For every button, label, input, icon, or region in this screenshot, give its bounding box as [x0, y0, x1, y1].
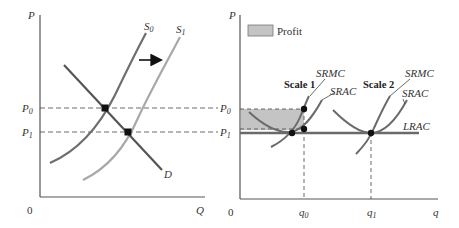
left-origin-label: 0: [27, 204, 33, 216]
scale2-equilibrium-point: [368, 130, 374, 136]
scale2-srac-curve: [333, 100, 407, 133]
equilibrium-point-0: [102, 105, 109, 112]
q1-label: q1: [367, 206, 377, 220]
profit-legend-swatch: [248, 25, 273, 36]
demand-curve: [64, 65, 162, 170]
firm-panel: P 0 q Profit P0 P1 LRAC Scale 1 SRMC SRA…: [219, 9, 439, 220]
market-panel: P 0 Q P0 P1 S0 S1 D: [21, 9, 218, 216]
s1-label: S1: [176, 23, 186, 37]
lrac-label: LRAC: [402, 120, 431, 132]
scale2-srac-leader: [403, 99, 405, 104]
scale1-title: Scale 1: [284, 79, 315, 90]
right-origin-label: 0: [228, 206, 234, 218]
scale1-price-point: [301, 106, 307, 112]
scale1-srmc-label: SRMC: [316, 67, 345, 79]
supply-curve-s0: [50, 33, 146, 163]
left-y-axis-label: P: [27, 9, 35, 21]
scale1-cost-point: [301, 126, 307, 132]
market-and-firm-diagram: P 0 Q P0 P1 S0 S1 D P 0 q: [0, 0, 459, 228]
supply-curve-s1: [83, 37, 180, 180]
scale2-srac-label: SRAC: [402, 87, 429, 99]
right-p0-label: P0: [219, 102, 231, 116]
s0-label: S0: [144, 20, 154, 34]
left-p1-label: P1: [21, 126, 33, 140]
q0-label: q0: [299, 206, 309, 220]
scale2-srmc-label: SRMC: [405, 67, 434, 79]
scale1-srac-label: SRAC: [330, 85, 357, 97]
scale2-title: Scale 2: [363, 79, 394, 90]
equilibrium-point-1: [125, 129, 132, 136]
scale1-min-srac-point: [289, 130, 295, 136]
scale2-srmc-curve: [356, 96, 390, 154]
right-x-axis-label: q: [433, 206, 439, 218]
right-p1-label: P1: [219, 126, 231, 140]
left-x-axis-label: Q: [196, 204, 204, 216]
profit-legend-label: Profit: [277, 25, 302, 37]
right-y-axis-label: P: [228, 9, 236, 21]
demand-label: D: [163, 168, 172, 180]
left-p0-label: P0: [21, 102, 33, 116]
